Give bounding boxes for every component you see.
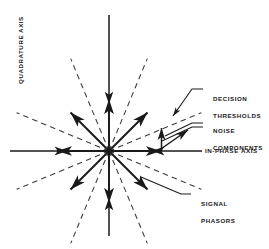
leader-noise-components-a [165,123,203,136]
decision-threshold-line-22 [109,113,201,151]
signal-phasors-label-line1: SIGNAL [201,200,228,207]
leader-signal-phasors [141,177,191,194]
signal-phasor-135deg [71,113,110,152]
leader-decision-thresholds [173,89,203,116]
noise-components-label-line1: NOISE [213,127,235,134]
signal-phasor-315deg [109,151,148,190]
signal-phasors-label-line2: PHASORS [201,217,235,224]
quadrature-axis-label: QUADRATURE AXIS [17,11,25,89]
signal-phasor-45deg [109,113,148,152]
signal-phasors [57,99,161,203]
decision-thresholds-label-line1: DECISION [213,95,247,102]
signal-phasor-225deg [71,151,110,190]
decision-threshold-line-202 [17,151,109,189]
noise-components-label-line2: COMPONENTS [213,144,263,151]
decision-threshold-line-157 [17,113,109,151]
decision-thresholds-label-line2: THRESHOLDS [213,112,261,119]
signal-phasors-label: SIGNAL PHASORS [192,192,236,233]
decision-threshold-line-247 [71,151,109,243]
decision-threshold-line-112 [71,59,109,151]
phasor-diagram-figure: QUADRATURE AXIS IN-PHASE AXIS DECISION T… [0,0,269,249]
noise-components-label: NOISE COMPONENTS [204,119,263,160]
decision-threshold-line-67 [109,59,147,151]
decision-threshold-line-292 [109,151,147,243]
